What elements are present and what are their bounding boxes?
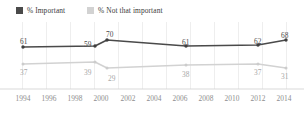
- data-label: 68: [281, 32, 288, 40]
- chart-svg: [0, 22, 304, 90]
- data-label: 39: [84, 69, 91, 77]
- x-axis-labels: 1994 1996 1998 2000 2002 2004 2006 2008 …: [0, 94, 304, 108]
- x-axis-tick: 2000: [93, 94, 108, 104]
- x-axis-tick: 1998: [67, 94, 82, 104]
- x-axis-tick: 2004: [146, 94, 161, 104]
- x-axis-tick: 1994: [15, 94, 30, 104]
- x-axis-tick: 2006: [172, 94, 187, 104]
- series-markers-not-important: [22, 61, 288, 70]
- x-axis-tick: 2012: [250, 94, 265, 104]
- data-label: 37: [254, 69, 261, 77]
- legend-label-not-important: % Not that important: [98, 6, 163, 15]
- x-axis-tick: 2014: [276, 94, 291, 104]
- data-label: 61: [182, 39, 189, 47]
- x-axis-tick: 1996: [41, 94, 56, 104]
- data-label: 61: [20, 38, 27, 46]
- x-axis-tick: 2002: [120, 94, 135, 104]
- x-axis-tick: 2008: [198, 94, 213, 104]
- data-label: 62: [254, 38, 261, 46]
- legend-item-not-important[interactable]: % Not that important: [87, 4, 163, 16]
- chart-legend: % Important % Not that important: [0, 0, 304, 22]
- data-label: 70: [106, 31, 113, 39]
- series-line-important: [23, 40, 286, 47]
- x-axis-tick: 2010: [224, 94, 239, 104]
- data-label: 38: [182, 71, 189, 79]
- data-label: 31: [281, 73, 288, 81]
- series-line-not-important: [23, 62, 286, 68]
- data-label: 29: [108, 75, 115, 83]
- legend-label-important: % Important: [27, 6, 65, 15]
- legend-item-important[interactable]: % Important: [16, 4, 65, 16]
- data-label: 59: [84, 41, 91, 49]
- legend-swatch-icon: [87, 7, 94, 14]
- data-label: 37: [20, 69, 27, 77]
- chart-screenshot: % Important % Not that important: [0, 0, 304, 116]
- legend-swatch-icon: [16, 7, 23, 14]
- plot-area: 61 59 70 61 62 68 37 39 29 38 37 31: [0, 22, 304, 90]
- gridlines: [23, 22, 287, 89]
